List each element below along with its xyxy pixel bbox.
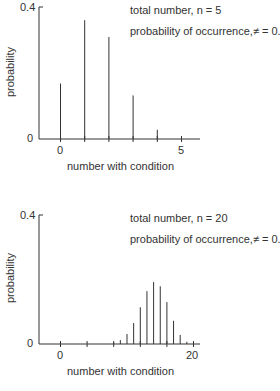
- annotation-p-bottom: probability of occurrence,≠ = 0.7: [130, 233, 280, 245]
- ytick-bottom-0: 0: [27, 337, 33, 349]
- annotation-n-bottom: total number, n = 20: [130, 212, 228, 224]
- ytick-bottom-0.4: 0.4: [20, 209, 35, 221]
- xtick-bottom-20: 20: [186, 349, 198, 361]
- stem-plot-bottom: [0, 0, 280, 391]
- chart-bottom: 0.4 0 0 20 number with condition probabi…: [0, 0, 280, 391]
- y-axis-label-bottom: probability: [4, 253, 16, 303]
- x-axis-label-bottom: number with condition: [67, 365, 174, 377]
- xtick-bottom-0: 0: [57, 349, 63, 361]
